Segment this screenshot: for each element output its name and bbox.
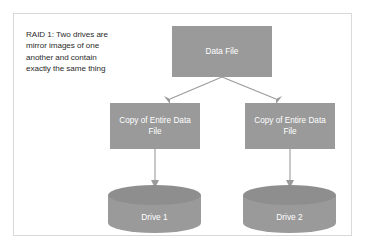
node-drive-right[interactable]: Drive 2 [243, 185, 336, 233]
node-copy-left-label: Copy of Entire Data File [112, 115, 198, 137]
caption-text: RAID 1: Two drives are mirror images of … [26, 29, 114, 75]
node-copy-right[interactable]: Copy of Entire Data File [245, 103, 335, 149]
node-data-file-label: Data File [206, 46, 239, 57]
diagram-canvas: RAID 1: Two drives are mirror images of … [0, 0, 368, 249]
cylinder-icon [108, 185, 201, 233]
cylinder-icon [243, 185, 336, 233]
node-copy-left[interactable]: Copy of Entire Data File [110, 103, 200, 149]
node-data-file[interactable]: Data File [172, 26, 272, 77]
node-copy-right-label: Copy of Entire Data File [247, 115, 333, 137]
node-drive-left[interactable]: Drive 1 [108, 185, 201, 233]
